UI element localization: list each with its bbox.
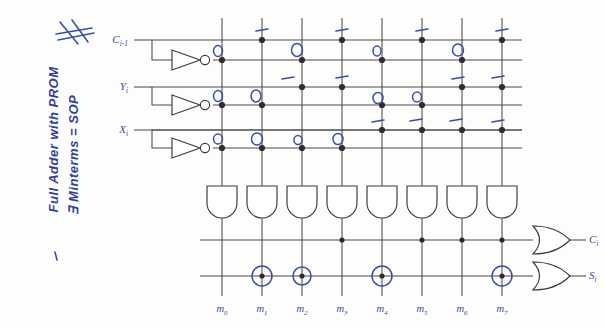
not-gate-c bbox=[172, 50, 200, 70]
connection-dot bbox=[459, 237, 464, 242]
not-bubble-c bbox=[200, 55, 209, 64]
connection-dot bbox=[299, 273, 304, 278]
connection-dot bbox=[339, 37, 345, 43]
connection-dot bbox=[459, 84, 465, 90]
connection-dot bbox=[259, 145, 265, 151]
input-label-x: Xi bbox=[119, 123, 128, 138]
ink-dash-mark bbox=[336, 76, 348, 78]
connection-dot bbox=[499, 127, 505, 133]
connection-dot bbox=[419, 127, 425, 133]
ink-o-mark bbox=[214, 134, 223, 144]
minterm-label-m3: m3 bbox=[327, 303, 357, 317]
input-label-y: Yi bbox=[120, 80, 128, 95]
circuit-diagram-page: .w { stroke: #4a4a4a; stroke-width: 1.05… bbox=[0, 0, 604, 328]
connection-dot bbox=[419, 37, 425, 43]
ink-dash-mark bbox=[450, 119, 462, 121]
not-bubble-x bbox=[200, 143, 209, 152]
input-label-c: Ci-1 bbox=[112, 33, 128, 48]
ink-dash-mark bbox=[496, 29, 508, 31]
not-gate-x bbox=[172, 138, 200, 158]
and-gate-1 bbox=[207, 186, 237, 296]
connection-dot bbox=[219, 57, 225, 63]
or-gates-group bbox=[533, 226, 586, 290]
or-plane-lines-group bbox=[200, 240, 533, 276]
ink-o-mark bbox=[214, 91, 223, 102]
wire-y-to-inverter bbox=[152, 87, 172, 105]
ink-dash-mark bbox=[336, 29, 348, 31]
handwritten-note-line-1: Full Adder with PROM bbox=[46, 23, 61, 213]
minterm-label-m2: m2 bbox=[287, 303, 317, 317]
and-gate-5 bbox=[367, 186, 397, 296]
connection-dot bbox=[299, 145, 305, 151]
connection-dot bbox=[499, 84, 505, 90]
and-gates-group bbox=[207, 186, 517, 296]
ink-o-mark bbox=[252, 133, 263, 145]
connection-dot bbox=[339, 237, 344, 242]
minterm-label-m0: m0 bbox=[207, 303, 237, 317]
ink-o-mark bbox=[373, 46, 381, 56]
wire-x-to-inverter bbox=[152, 130, 172, 148]
minterm-label-m5: m5 bbox=[407, 303, 437, 317]
and-gate-3 bbox=[287, 186, 317, 296]
connection-dot bbox=[219, 145, 225, 151]
minterm-label-m4: m4 bbox=[367, 303, 397, 317]
connection-dot bbox=[499, 237, 504, 242]
ink-dash-mark bbox=[256, 29, 268, 31]
minterm-label-m6: m6 bbox=[447, 303, 477, 317]
ink-o-mark bbox=[214, 46, 223, 57]
connection-dot bbox=[299, 57, 305, 63]
ink-o-mark bbox=[294, 136, 302, 145]
connection-dot bbox=[339, 84, 345, 90]
connection-dot bbox=[379, 57, 385, 63]
wire-c-to-inverter bbox=[152, 40, 172, 60]
minterm-label-m1: m1 bbox=[247, 303, 277, 317]
circuit-svg: .w { stroke: #4a4a4a; stroke-width: 1.05… bbox=[0, 0, 604, 328]
connection-dot bbox=[419, 237, 424, 242]
output-label-carry: Ci bbox=[589, 233, 598, 248]
minterm-label-m7: m7 bbox=[487, 303, 517, 317]
connection-dot bbox=[419, 102, 425, 108]
connection-dot bbox=[299, 84, 305, 90]
not-gate-y bbox=[172, 95, 200, 115]
output-label-sum: Si bbox=[589, 269, 597, 284]
or-gate-carry bbox=[533, 226, 586, 254]
connection-dot bbox=[259, 37, 265, 43]
ink-o-mark bbox=[413, 92, 422, 102]
ink-dash-mark bbox=[410, 119, 422, 121]
ink-dash-mark bbox=[282, 77, 294, 79]
connection-dot bbox=[339, 145, 345, 151]
inverters-group bbox=[172, 50, 210, 158]
connection-dot bbox=[259, 273, 264, 278]
connection-dot bbox=[259, 102, 265, 108]
handwritten-note-line-2: ∃ Minterms = SOP bbox=[66, 25, 81, 215]
connection-dot bbox=[499, 37, 505, 43]
not-bubble-y bbox=[200, 100, 209, 109]
connection-dot bbox=[379, 127, 385, 133]
or-gate-sum bbox=[533, 262, 586, 290]
connection-dot bbox=[219, 102, 225, 108]
connection-dot bbox=[499, 273, 504, 278]
and-gate-2 bbox=[247, 186, 277, 296]
connection-dot bbox=[459, 57, 465, 63]
ink-o-mark bbox=[292, 44, 303, 57]
connection-dot bbox=[379, 273, 384, 278]
connection-dot bbox=[459, 127, 465, 133]
stray-ink-tick bbox=[55, 252, 57, 260]
ink-o-mark bbox=[251, 90, 261, 102]
product-term-lines-group bbox=[222, 18, 502, 186]
ink-dash-mark bbox=[416, 29, 428, 31]
